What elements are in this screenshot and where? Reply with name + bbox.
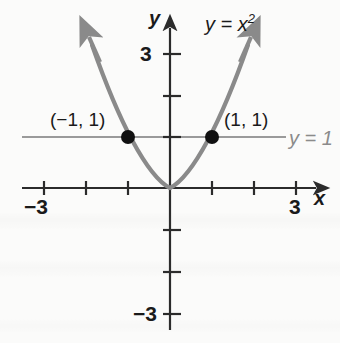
point-marker-neg1-1: [121, 130, 135, 144]
graph-figure: y x 3 −3 −3 3 y = x2 y = 1 (−1, 1) (1, 1…: [0, 0, 340, 343]
curve-equation-base: y = x: [205, 13, 248, 35]
y-tick-label-negative-3: −3: [133, 303, 157, 324]
coordinate-plane-svg: [0, 0, 340, 343]
line-equation-label: y = 1: [289, 128, 333, 148]
curve-equation-label: y = x2: [205, 12, 255, 34]
x-axis-label: x: [314, 188, 325, 208]
y-tick-label-3: 3: [140, 43, 152, 64]
x-tick-label-negative-3: −3: [24, 196, 48, 217]
point-marker-1-1: [205, 130, 219, 144]
curve-equation-exponent: 2: [248, 11, 255, 26]
point-label-1-1: (1, 1): [224, 110, 268, 129]
parabola-arrow-left: [89, 37, 100, 62]
parabola-arrow-right: [240, 37, 251, 62]
point-label-negative-1-1: (−1, 1): [50, 110, 105, 129]
x-tick-label-3: 3: [289, 196, 301, 217]
y-axis-label: y: [149, 8, 160, 28]
